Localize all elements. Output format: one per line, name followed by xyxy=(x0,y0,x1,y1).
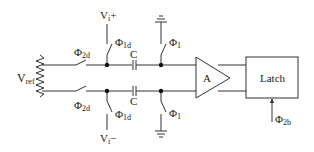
latch-label: Latch xyxy=(260,73,285,84)
switch-phi1-top xyxy=(161,44,166,55)
node-dot xyxy=(105,63,109,67)
amplifier xyxy=(196,57,230,98)
phi2b-label: Φ2b xyxy=(275,114,291,127)
vref-label: Vref xyxy=(17,72,35,86)
node-dot xyxy=(159,89,163,93)
phi1d-top-label: Φ1d xyxy=(115,37,131,50)
phi1-top-label: Φ1 xyxy=(169,37,181,50)
vi-plus-label: Vi+ xyxy=(100,10,116,23)
vi-minus-label: Vi− xyxy=(100,133,116,146)
phi1d-bottom-label: Φ1d xyxy=(115,109,131,122)
switch-phi1-bottom xyxy=(161,101,166,112)
switch-phi1d-top xyxy=(107,44,112,55)
switch-phi1d-bottom xyxy=(107,101,112,112)
arrow-up-icon xyxy=(270,98,274,103)
phi2d-bottom-label: Φ2d xyxy=(74,100,90,113)
phi2d-top-label: Φ2d xyxy=(74,47,90,60)
ground-top-icon xyxy=(155,16,167,22)
capacitor-top-label: C xyxy=(130,49,137,60)
node-dot xyxy=(105,89,109,93)
node-dot xyxy=(159,63,163,67)
capacitor-bottom-label: C xyxy=(130,96,137,107)
switch-phi2d-bottom xyxy=(76,86,86,91)
switch-phi2d-top xyxy=(76,60,86,65)
amplifier-label: A xyxy=(203,73,211,84)
ground-bottom-icon xyxy=(155,131,167,137)
phi1-bottom-label: Φ1 xyxy=(169,108,181,121)
